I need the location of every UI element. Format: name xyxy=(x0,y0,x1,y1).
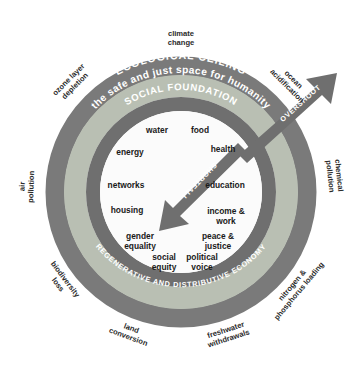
social-item-health: health xyxy=(211,144,236,154)
social-item-gender-equality: genderequality xyxy=(124,231,156,251)
doughnut-svg: ECOLOGICAL CEILING the safe and just spa… xyxy=(0,0,361,382)
social-item-education: education xyxy=(205,180,245,190)
eco-item-chemical-pollution: chemicalpollution xyxy=(324,159,345,193)
eco-item-air-pollution: airpollution xyxy=(17,170,36,203)
social-item-energy: energy xyxy=(116,147,144,157)
social-item-food: food xyxy=(191,125,209,135)
doughnut-diagram: ECOLOGICAL CEILING the safe and just spa… xyxy=(0,0,361,382)
social-item-water: water xyxy=(145,125,169,135)
eco-item-climate-change: climatechange xyxy=(168,29,195,47)
social-item-social-equity: socialequity xyxy=(152,252,177,272)
social-item-housing: housing xyxy=(111,205,144,215)
social-item-networks: networks xyxy=(108,180,145,190)
social-item-peace-and-justice: peace &justice xyxy=(202,231,234,251)
